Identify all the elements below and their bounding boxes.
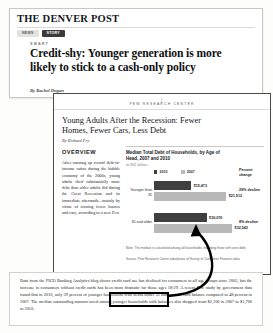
newspaper-masthead: THE DENVER POST: [17, 13, 119, 24]
percent-change-younger: 29% decline: [239, 188, 266, 193]
percent-change-older: 8% decline: [239, 220, 266, 225]
bar-younger-2007: [154, 192, 226, 201]
article-headline: Credit-shy: Younger generation is more l…: [30, 47, 240, 74]
nav-item-story-label: Story: [47, 30, 60, 37]
nav-item-story[interactable]: Story: [42, 30, 65, 37]
legend-item-2010: 2010: [154, 170, 167, 174]
legend-item-2007: 2007: [181, 170, 194, 174]
pew-report-sheet: | PEW RESEARCH CENTER Young Adults After…: [53, 93, 271, 275]
legend-label-2007: 2007: [187, 170, 195, 174]
overview-heading: OVERVIEW: [62, 149, 96, 155]
bar-value-older-2010: $30,070: [209, 216, 222, 220]
debt-bar-chart: Median Total Debt of Households, by Age …: [126, 150, 266, 258]
report-author: By Richard Fry: [62, 138, 89, 143]
bar-older-2010: [154, 213, 207, 222]
masthead-divider: [17, 27, 255, 28]
category-label-older: 35 and older: [126, 220, 152, 225]
article-kicker[interactable]: SMART: [30, 42, 49, 46]
legend-label-2010: 2010: [159, 170, 167, 174]
pew-logo-icon: |: [161, 97, 162, 102]
chart-legend: 2010 2007: [154, 170, 195, 174]
pew-logo-label: PEW RESEARCH CENTER: [129, 102, 194, 106]
legend-swatch-2010-icon: [154, 170, 157, 173]
article-navbar: News Story: [17, 30, 65, 37]
newspaper-article-sheet: THE DENVER POST News Story SMART Credit-…: [9, 8, 263, 98]
chart-source: Source: Pew Research Center tabulations …: [126, 257, 264, 261]
chart-divider: [126, 146, 264, 147]
bar-older-2007: [154, 224, 232, 233]
legend-swatch-2007-icon: [181, 170, 184, 173]
annotation-highlight-box: [109, 292, 169, 307]
chart-title: Median Total Debt of Households, by Age …: [126, 150, 232, 162]
bar-value-older-2007: $32,543: [235, 226, 248, 230]
nav-item-news[interactable]: News: [17, 30, 39, 37]
bar-value-younger-2007: $21,912: [229, 194, 242, 198]
bar-younger-2010: [154, 181, 191, 190]
chart-subtitle: in 2011 dollars: [126, 163, 148, 167]
category-label-younger: Younger than 35: [126, 188, 152, 197]
percent-change-header: Percent change: [239, 168, 266, 178]
masthead-text: THE DENVER POST: [17, 13, 119, 24]
chart-note: Note: The median is calculated among all…: [126, 246, 264, 250]
nav-item-news-label: News: [22, 30, 34, 37]
report-title: Young Adults After the Recession: Fewer …: [62, 116, 202, 137]
overview-body-text: After running up record debt-to-income r…: [62, 160, 120, 217]
bar-value-younger-2010: $15,473: [194, 184, 207, 188]
